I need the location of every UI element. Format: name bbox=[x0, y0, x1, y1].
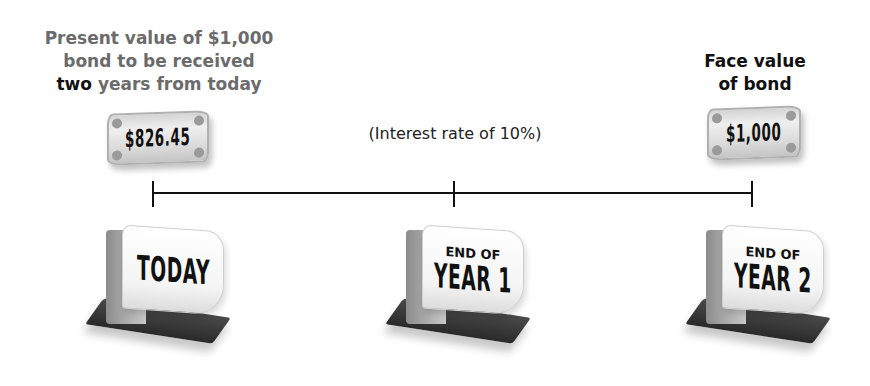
timeline-tick-today bbox=[152, 181, 154, 207]
present-value-line-3-rest: years from today bbox=[92, 74, 262, 94]
calendar-year-1-icon: END OF YEAR 1 bbox=[388, 228, 548, 368]
timeline-tick-year-1 bbox=[453, 181, 455, 207]
calendar-page: TODAY bbox=[122, 224, 224, 315]
present-value-line-1: Present value of $1,000 bbox=[28, 27, 290, 50]
face-value-amount: $1,000 bbox=[726, 118, 781, 148]
face-value-line-1: Face value bbox=[690, 50, 820, 73]
present-value-line-2: bond to be received bbox=[28, 50, 290, 73]
present-value-amount: $826.45 bbox=[125, 123, 190, 153]
calendar-year-2-icon: END OF YEAR 2 bbox=[688, 228, 848, 368]
calendar-today-icon: TODAY bbox=[88, 228, 248, 368]
calendar-label: YEAR 1 bbox=[434, 258, 512, 297]
interest-rate-label: (Interest rate of 10%) bbox=[350, 124, 560, 143]
present-value-line-3: two years from today bbox=[28, 73, 290, 96]
calendar-page: END OF YEAR 2 bbox=[722, 224, 824, 315]
present-value-heading: Present value of $1,000 bond to be recei… bbox=[28, 27, 290, 96]
face-value-heading: Face value of bond bbox=[690, 50, 820, 96]
calendar-page: END OF YEAR 1 bbox=[422, 224, 524, 315]
present-value-bill-icon: $826.45 bbox=[107, 110, 209, 166]
face-value-bill-icon: $1,000 bbox=[707, 105, 801, 160]
present-value-emphasis: two bbox=[56, 74, 92, 94]
calendar-label: TODAY bbox=[136, 250, 209, 289]
face-value-line-2: of bond bbox=[690, 73, 820, 96]
calendar-label: YEAR 2 bbox=[734, 258, 812, 297]
timeline-tick-year-2 bbox=[751, 181, 753, 207]
